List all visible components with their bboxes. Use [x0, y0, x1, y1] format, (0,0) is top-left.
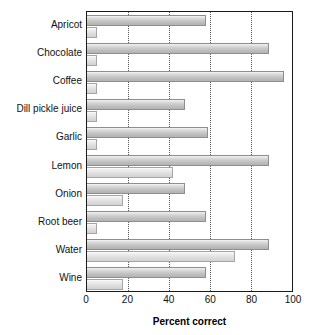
bar-group: [87, 96, 292, 124]
bar-lemon-upper: [87, 155, 269, 166]
x-tick-40: 40: [163, 294, 174, 306]
bar-coffee-lower: [87, 83, 97, 94]
y-label-lemon: Lemon: [51, 160, 82, 171]
bar-onion-lower: [87, 195, 123, 206]
bar-root-beer-lower: [87, 223, 97, 234]
x-tick-20: 20: [122, 294, 133, 306]
bar-group: [87, 265, 292, 292]
bar-group: [87, 40, 292, 68]
bar-garlic-lower: [87, 139, 97, 150]
bar-apricot-upper: [87, 15, 206, 26]
y-label-dill-pickle-juice: Dill pickle juice: [16, 103, 82, 114]
horizontal-bar-chart: ApricotChocolateCoffeeDill pickle juiceG…: [0, 0, 311, 335]
bar-group: [87, 181, 292, 209]
y-label-apricot: Apricot: [51, 19, 82, 30]
bar-garlic-upper: [87, 127, 208, 138]
x-axis-tick-labels: 020406080100: [86, 294, 293, 308]
bar-group: [87, 12, 292, 40]
y-label-wine: Wine: [59, 272, 82, 283]
bar-water-lower: [87, 251, 235, 262]
y-axis-category-labels: ApricotChocolateCoffeeDill pickle juiceG…: [0, 11, 82, 292]
y-label-chocolate: Chocolate: [37, 47, 82, 58]
bar-chocolate-upper: [87, 43, 269, 54]
bar-rows: [87, 12, 292, 291]
bar-wine-lower: [87, 279, 123, 290]
plot-area: [86, 11, 293, 292]
bar-onion-upper: [87, 183, 185, 194]
bar-group: [87, 237, 292, 265]
bar-lemon-lower: [87, 167, 173, 178]
bar-group: [87, 209, 292, 237]
bar-chocolate-lower: [87, 55, 97, 66]
bar-root-beer-upper: [87, 211, 206, 222]
bar-dill-pickle-juice-upper: [87, 99, 185, 110]
bar-water-upper: [87, 239, 269, 250]
x-axis-title: Percent correct: [86, 316, 293, 327]
bar-group: [87, 124, 292, 152]
bar-group: [87, 68, 292, 96]
bar-coffee-upper: [87, 71, 284, 82]
y-label-water: Water: [56, 244, 82, 255]
bar-apricot-lower: [87, 27, 97, 38]
y-label-coffee: Coffee: [53, 75, 82, 86]
bar-dill-pickle-juice-lower: [87, 111, 97, 122]
x-tick-80: 80: [246, 294, 257, 306]
bar-group: [87, 153, 292, 181]
y-label-garlic: Garlic: [56, 131, 82, 142]
x-tick-60: 60: [205, 294, 216, 306]
x-tick-0: 0: [83, 294, 89, 306]
y-label-root-beer: Root beer: [38, 216, 82, 227]
bar-wine-upper: [87, 267, 206, 278]
y-label-onion: Onion: [55, 188, 82, 199]
x-tick-100: 100: [285, 294, 302, 306]
